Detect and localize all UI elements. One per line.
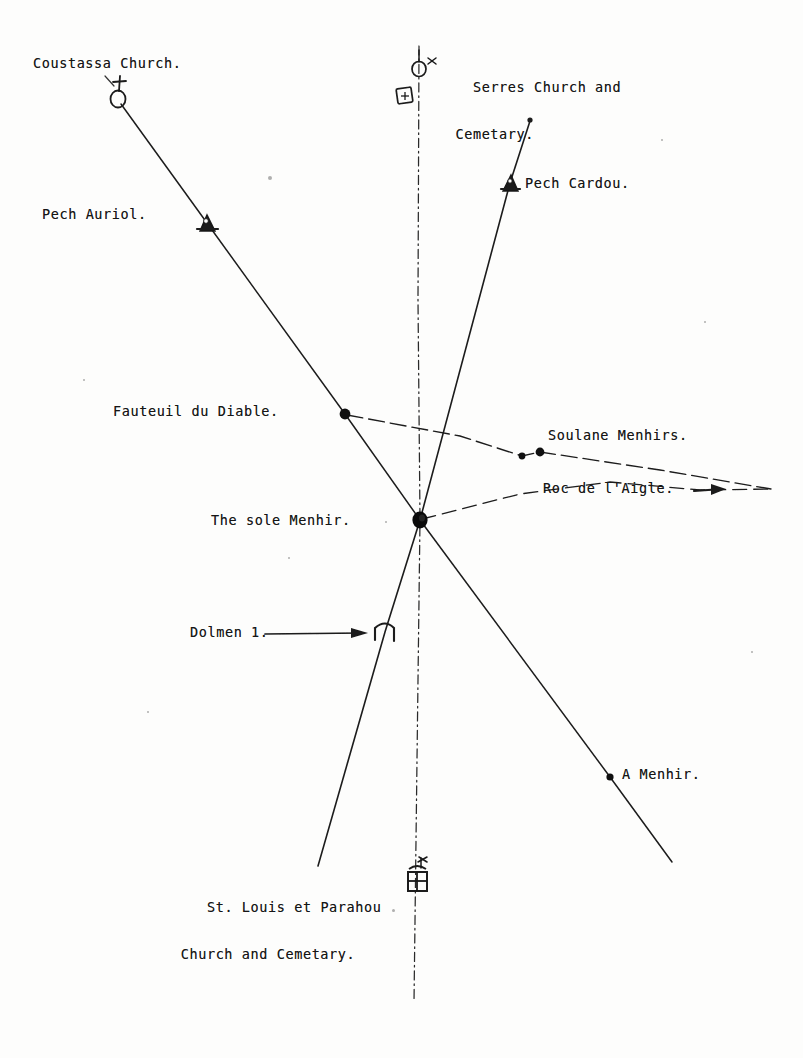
label-parahou-line1: St. Louis et Parahou [207,899,382,915]
label-the-sole-menhir: The sole Menhir. [211,509,351,531]
label-a-menhir: A Menhir. [622,763,701,785]
label-pech-cardou: Pech Cardou. [525,172,630,194]
line-serres-meridian [414,46,420,1002]
serres-cemetery-symbol [396,87,413,104]
serres-church-symbol [412,50,436,77]
a-menhir-dot [606,773,613,780]
label-pech-auriol: Pech Auriol. [42,203,147,225]
coustassa-church-symbol [105,76,126,108]
paper-speck [288,557,290,559]
label-parahou-line2: Church and Cemetary. [172,943,381,967]
dolmen-1-symbol [375,624,394,642]
fauteuil-du-diable-dot [340,409,351,420]
label-fauteuil-du-diable: Fauteuil du Diable. [113,400,279,422]
map-drawing-layer [0,0,803,1058]
paper-speck [751,651,753,653]
roc-de-laigle-pointer [694,484,726,495]
paper-speck [385,521,388,524]
label-coustassa-church: Coustassa Church. [33,52,181,74]
label-serres-church-line1: Serres Church and [473,79,621,95]
paper-speck [392,909,395,912]
paper-speck [661,139,663,141]
pech-auriol-symbol [197,215,218,231]
label-st-louis-et-parahou: St. Louis et Parahou Church and Cemetary… [172,872,381,1014]
label-serres-church-line2: Cemetary. [438,123,621,147]
soulane-menhir-dot-2 [536,448,545,457]
sole-menhir-hub [412,512,427,529]
label-soulane-menhirs: Soulane Menhirs. [548,424,688,446]
paper-speck [147,711,149,713]
paper-speck [83,379,86,382]
dolmen-1-pointer [265,628,368,638]
parahou-church-symbol [408,857,427,891]
paper-speck [268,176,272,180]
soulane-menhir-dot-1 [519,453,526,460]
line-pech-cardou-axis [318,117,533,866]
label-roc-de-laigle: Roc de l'Aigle. [543,477,674,499]
paper-speck [704,321,706,323]
label-dolmen-1: Dolmen 1. [190,621,269,643]
map-sheet: Coustassa Church. Serres Church and Ceme… [0,0,803,1058]
